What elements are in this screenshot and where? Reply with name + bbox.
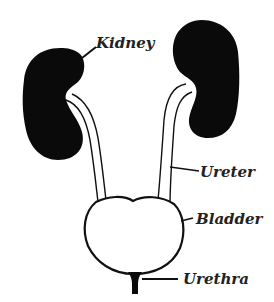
kidney-label: Kidney: [96, 36, 154, 51]
left-kidney: [23, 48, 85, 160]
bladder: [85, 197, 184, 274]
right-ureter: [158, 84, 192, 206]
urethra: [128, 272, 142, 294]
ureter-leader-line: [170, 167, 199, 171]
right-kidney: [173, 20, 239, 138]
urethra-label: Urethra: [183, 272, 249, 287]
ureter-label: Ureter: [200, 165, 255, 180]
kidney-leader-line: [82, 47, 96, 58]
bladder-label: Bladder: [196, 212, 263, 227]
